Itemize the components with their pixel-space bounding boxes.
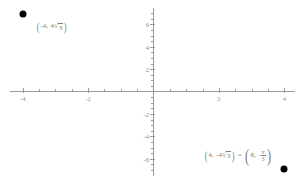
comma: ,: [46, 22, 48, 31]
open-paren: (: [205, 151, 208, 160]
x-tick-major: [88, 88, 89, 93]
y-tick-major: [150, 47, 155, 48]
y-tick-minor: [151, 131, 154, 132]
y-tick-minor: [151, 41, 154, 42]
x-tick-label: 4: [283, 95, 286, 102]
x-tick-minor: [39, 89, 40, 92]
y-tick-minor: [151, 142, 154, 143]
y-tick-minor: [151, 19, 154, 20]
y-tick-label: 6: [146, 21, 149, 28]
polar-comma: ,: [254, 151, 256, 160]
x-tick-minor: [55, 89, 56, 92]
theta-denominator: 3: [261, 155, 266, 162]
y-tick-major: [150, 159, 155, 160]
y-tick-major: [150, 136, 155, 137]
y-tick-minor: [151, 64, 154, 65]
y-tick-major: [150, 69, 155, 70]
comma: ,: [212, 151, 214, 160]
y-tick-minor: [151, 170, 154, 171]
y-tick-minor: [151, 164, 154, 165]
close-paren: ): [64, 22, 67, 31]
x-tick-label: -2: [85, 95, 90, 102]
y-tick-minor: [151, 58, 154, 59]
y-tick-minor: [151, 125, 154, 126]
coordinate-plot: -4-224 642-2-4-6 ( -4 , 4 √ 3 ) ( 4 , -4…: [0, 0, 301, 183]
x-tick-minor: [203, 89, 204, 92]
y-tick-label: -6: [144, 155, 149, 162]
x-tick-minor: [104, 89, 105, 92]
y-tick-minor: [151, 30, 154, 31]
x-tick-label: -4: [20, 95, 25, 102]
x-tick-minor: [268, 89, 269, 92]
y-tick-minor: [151, 103, 154, 104]
x-tick-minor: [170, 89, 171, 92]
y-tick-label: 4: [146, 43, 149, 50]
equals-sign: =: [238, 151, 242, 160]
y-tick-major: [150, 24, 155, 25]
y-tick-label: 2: [146, 66, 149, 73]
y-tick-label: -4: [144, 133, 149, 140]
y-tick-minor: [151, 36, 154, 37]
x-tick-minor: [235, 89, 236, 92]
x-tick-minor: [186, 89, 187, 92]
x-tick-minor: [72, 89, 73, 92]
y-tick-major: [150, 114, 155, 115]
x-tick-minor: [121, 89, 122, 92]
y-tick-minor: [151, 120, 154, 121]
y-tick-minor: [151, 153, 154, 154]
y-tick-minor: [151, 97, 154, 98]
y-tick-minor: [151, 80, 154, 81]
x-tick-major: [219, 88, 220, 93]
x-tick-minor: [137, 89, 138, 92]
x-tick-major: [284, 88, 285, 93]
data-point-lower-right: [281, 166, 288, 173]
data-point-upper-left: [19, 10, 26, 17]
x-tick-major: [23, 88, 24, 93]
polar-open-paren: (: [245, 151, 249, 160]
y-tick-minor: [151, 148, 154, 149]
rect-polar-equation-lower: ( 4 , -4 √ 3 ) = ( 8 , - π 3 ): [204, 149, 272, 163]
polar-close-paren: ): [267, 151, 271, 160]
y-tick-minor: [151, 13, 154, 14]
theta-fraction: π 3: [261, 149, 266, 162]
x-tick-label: 2: [217, 95, 220, 102]
radicand: 3: [58, 23, 63, 32]
y-axis-line: [153, 8, 154, 176]
y-tick-label: -2: [144, 110, 149, 117]
y-tick-minor: [151, 108, 154, 109]
radicand: 3: [226, 151, 231, 160]
open-paren: (: [37, 22, 40, 31]
x-tick-minor: [252, 89, 253, 92]
y-tick-minor: [151, 52, 154, 53]
close-paren: ): [232, 151, 235, 160]
y-tick-minor: [151, 86, 154, 87]
y-tick-minor: [151, 75, 154, 76]
square-root-icon: √ 3: [54, 22, 63, 32]
square-root-icon: √ 3: [222, 151, 231, 161]
rect-label-upper: ( -4 , 4 √ 3 ): [36, 22, 67, 34]
